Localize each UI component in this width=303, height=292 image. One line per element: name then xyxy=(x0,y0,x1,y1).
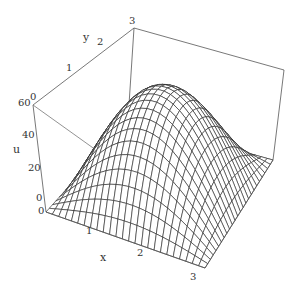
z-axis-label: u xyxy=(13,144,20,155)
x-axis-label: x xyxy=(100,252,106,263)
y-tick-2: 2 xyxy=(97,37,103,47)
surface-plot: 3 2 y 1 0 60 40 u 20 0 0 1 x 2 3 xyxy=(0,0,303,292)
x-tick-0: 0 xyxy=(38,206,44,216)
x-tick-2: 2 xyxy=(137,248,143,258)
plot-canvas xyxy=(0,0,303,292)
z-tick-20: 20 xyxy=(28,163,41,173)
z-tick-0: 0 xyxy=(36,193,42,203)
y-axis-label: y xyxy=(83,32,89,43)
box-edge xyxy=(273,70,284,160)
z-tick-60: 60 xyxy=(18,98,31,108)
y-tick-0: 0 xyxy=(30,92,36,102)
y-tick-1: 1 xyxy=(66,63,72,73)
z-tick-40: 40 xyxy=(22,130,35,140)
x-tick-1: 1 xyxy=(86,226,92,236)
box-edge xyxy=(134,28,284,70)
x-tick-3: 3 xyxy=(190,272,196,282)
y-tick-3: 3 xyxy=(129,16,135,26)
